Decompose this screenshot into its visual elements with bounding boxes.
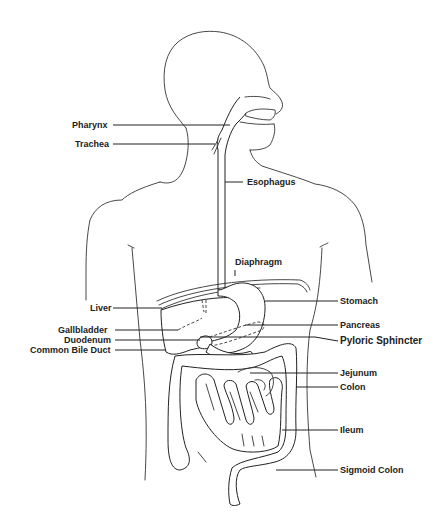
label-stomach: Stomach [340,296,378,306]
label-pharynx: Pharynx [72,120,108,130]
digestive-system-diagram [0,0,442,525]
label-trachea: Trachea [75,139,109,149]
small-intestine-shape [196,368,282,453]
label-colon: Colon [340,382,366,392]
label-sigmoid-colon: Sigmoid Colon [340,465,404,475]
label-esophagus: Esophagus [247,177,296,187]
body-outline [86,31,372,480]
label-common-bile-duct: Common Bile Duct [30,345,111,355]
label-diaphragm: Diaphragm [235,257,282,267]
label-liver: Liver [90,303,112,313]
label-gallbladder: Gallbladder [58,325,108,335]
label-pyloric-sphincter: Pyloric Sphincter [340,336,422,346]
label-duodenum: Duodenum [64,335,111,345]
label-ileum: Ileum [340,425,364,435]
label-jejunum: Jejunum [340,368,377,378]
label-pancreas: Pancreas [340,320,380,330]
